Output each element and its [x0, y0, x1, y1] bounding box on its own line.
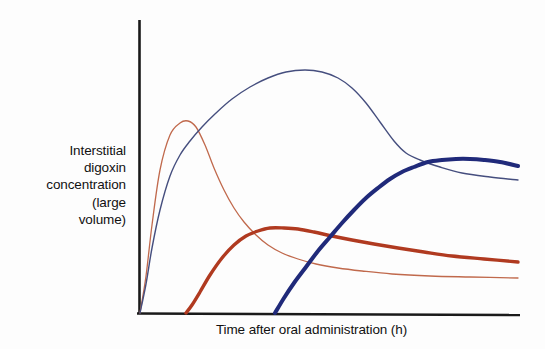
y-axis-label-line-2: digoxin: [8, 159, 126, 176]
digoxin-concentration-chart: Interstitial digoxin concentration (larg…: [0, 0, 545, 349]
y-axis-label-line-4: (large: [8, 194, 126, 211]
x-axis-line: [137, 314, 520, 316]
x-axis-label: Time after oral administration (h): [0, 322, 545, 337]
y-axis-label-line-3: concentration: [8, 176, 126, 193]
thin-red-curve: [140, 121, 518, 313]
curve-group: [140, 70, 518, 313]
y-axis-label-line-1: Interstitial: [8, 142, 126, 159]
thick-blue-curve: [275, 159, 518, 313]
y-axis-label-line-5: volume): [8, 211, 126, 228]
y-axis-label: Interstitial digoxin concentration (larg…: [8, 142, 126, 228]
x-axis-label-text: Time after oral administration (h): [138, 322, 407, 337]
